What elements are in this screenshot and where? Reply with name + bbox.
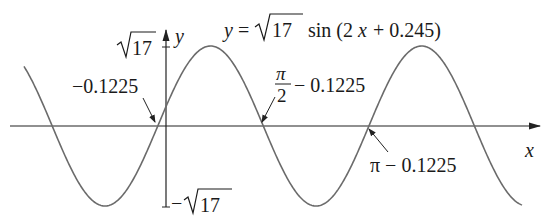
svg-text:π − 0.1225: π − 0.1225 — [370, 154, 456, 176]
annotation-zero-left: −0.1225 — [72, 75, 155, 122]
svg-text:y: y — [222, 19, 233, 42]
svg-text:sin (2: sin (2 — [308, 19, 353, 42]
graph-canvas: 17 y − 17 x y = 17 sin (2 x + 0.245) −0.… — [0, 0, 541, 219]
svg-text:−: − — [171, 192, 182, 214]
sinusoid-figure: 17 y − 17 x y = 17 sin (2 x + 0.245) −0.… — [0, 0, 541, 219]
svg-text:17: 17 — [272, 19, 292, 41]
svg-text:2: 2 — [277, 85, 287, 106]
y-axis-label: y — [173, 25, 184, 48]
svg-text:− 0.1225: − 0.1225 — [294, 74, 365, 96]
svg-text:17: 17 — [132, 37, 152, 59]
y-max-label: 17 — [117, 32, 156, 59]
y-min-label: − 17 — [171, 189, 232, 216]
svg-text:x: x — [357, 19, 367, 41]
annotation-zero-right: π − 0.1225 — [369, 129, 456, 176]
annotation-zero-mid: π 2 − 0.1225 — [262, 63, 365, 122]
svg-text:17: 17 — [200, 194, 220, 216]
svg-text:=: = — [238, 19, 249, 41]
equation-label: y = 17 sin (2 x + 0.245) — [222, 14, 441, 42]
svg-text:−0.1225: −0.1225 — [72, 75, 138, 97]
svg-text:+ 0.245): + 0.245) — [368, 19, 441, 42]
svg-text:π: π — [276, 63, 286, 84]
x-axis-label: x — [524, 139, 534, 161]
